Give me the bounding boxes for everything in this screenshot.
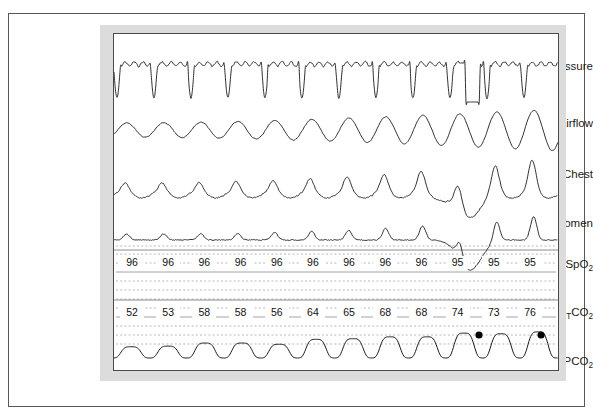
channel-label-spo2-subscript: 2 (588, 264, 593, 273)
trace-chest (114, 160, 557, 217)
spo2-value: 96 (229, 256, 253, 269)
spo2-value: 96 (409, 256, 433, 269)
trace-nasal-pressure (114, 60, 557, 105)
pco2-peak-marker-1 (475, 331, 482, 338)
petco2-value: 56 (265, 306, 289, 319)
petco2-value: 73 (482, 306, 506, 319)
channel-label-pco2-text: PCO (564, 355, 589, 367)
spo2-value: 95 (446, 256, 470, 269)
spo2-value: 96 (337, 256, 361, 269)
channel-label-petco2-subscript: 2 (588, 312, 593, 321)
petco2-value: 65 (337, 306, 361, 319)
spo2-value-row: 969696969696969696959595 (114, 256, 558, 269)
petco2-value: 64 (301, 306, 325, 319)
channel-label-petco2-co: CO (571, 306, 588, 318)
waveform-svg (114, 34, 558, 370)
petco2-value-row: 525358585664656868747376 (114, 306, 558, 319)
pco2-peak-marker-2 (538, 331, 545, 338)
spo2-value: 96 (265, 256, 289, 269)
petco2-value: 76 (518, 306, 542, 319)
petco2-value: 58 (192, 306, 216, 319)
trace-airflow (114, 110, 558, 150)
spo2-value: 96 (192, 256, 216, 269)
trace-pco2 (114, 332, 558, 358)
spo2-value: 96 (301, 256, 325, 269)
petco2-value: 68 (409, 306, 433, 319)
petco2-value: 53 (156, 306, 180, 319)
figure-container: Nasal pressure Airflow Chest Abdomen SpO… (0, 0, 593, 418)
spo2-value: 96 (373, 256, 397, 269)
spo2-value: 96 (156, 256, 180, 269)
spo2-value: 96 (120, 256, 144, 269)
spo2-value: 95 (482, 256, 506, 269)
channel-label-pco2-subscript: 2 (588, 361, 593, 370)
petco2-value: 52 (120, 306, 144, 319)
plot-area: 969696969696969696959595 525358585664656… (113, 33, 559, 371)
channel-label-chest-text: Chest (563, 168, 593, 180)
petco2-value: 58 (229, 306, 253, 319)
petco2-value: 68 (373, 306, 397, 319)
spo2-value: 95 (518, 256, 542, 269)
channel-label-spo2-text: SpO (565, 258, 588, 270)
petco2-value: 74 (446, 306, 470, 319)
